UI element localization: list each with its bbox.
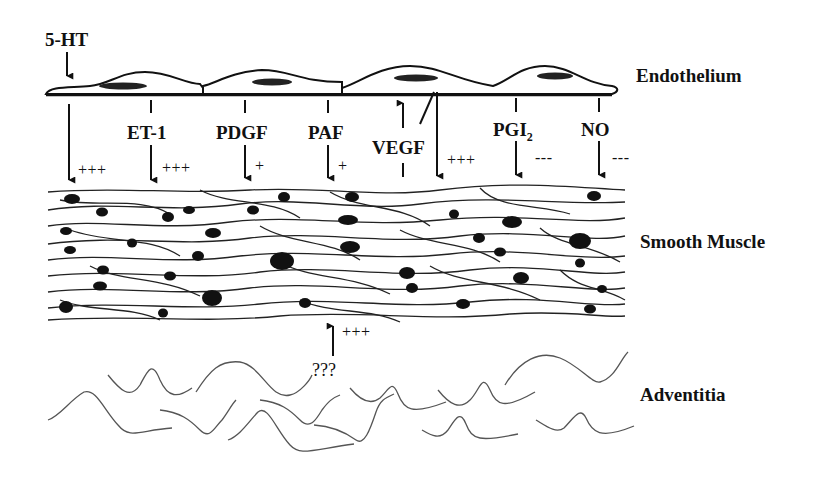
layer-endothelium-label: Endothelium: [636, 66, 742, 85]
pgi2-effect-sign: ---: [535, 150, 552, 166]
mediator-vegf-label: VEGF: [372, 138, 425, 157]
direct-effect-sign: +++: [78, 162, 107, 178]
adventitia-fibers: [48, 352, 634, 451]
mediator-pgi2-label: PGI2: [493, 120, 533, 143]
adventitia-effect-sign: +++: [342, 324, 371, 340]
endothelium-cells: [46, 66, 617, 95]
mediator-no-label: NO: [581, 120, 610, 139]
paf-effect-sign: +: [338, 158, 348, 174]
pdgf-effect-sign: +: [255, 158, 265, 174]
layer-smooth-muscle-label: Smooth Muscle: [640, 232, 765, 251]
smooth-muscle-fibers: [48, 185, 625, 322]
unknown-signal-label: ???: [312, 361, 336, 379]
vegf-effect-sign: +++: [447, 152, 476, 168]
mediator-pdgf-label: PDGF: [216, 123, 268, 142]
et1-effect-sign: +++: [162, 160, 191, 176]
layer-adventitia-label: Adventitia: [640, 385, 726, 404]
mediator-et1-label: ET-1: [127, 123, 166, 142]
no-effect-sign: ---: [612, 150, 629, 166]
stimulus-5ht-label: 5-HT: [45, 30, 88, 49]
mediator-paf-label: PAF: [308, 123, 344, 142]
